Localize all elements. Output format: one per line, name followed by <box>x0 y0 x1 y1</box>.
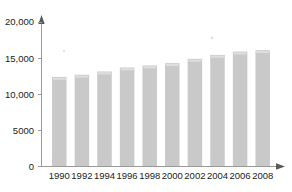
bar <box>120 68 135 167</box>
bar-top-highlight <box>53 78 66 80</box>
bar <box>97 71 112 166</box>
scan-speck-secondary-icon <box>211 37 214 40</box>
bar-rect <box>165 63 180 166</box>
bar-top-highlight <box>75 75 88 77</box>
x-axis-tick-label: 2002 <box>184 170 205 181</box>
bar-rect <box>75 75 90 167</box>
bar-rect <box>233 52 248 167</box>
bar-top-highlight <box>166 64 179 66</box>
bar <box>52 77 67 167</box>
x-axis-tick-label: 2004 <box>207 170 228 181</box>
bar <box>233 52 248 167</box>
bar-chart: 0500010,00015,00020,000 1990199219941996… <box>0 0 292 192</box>
bar <box>75 75 90 167</box>
bar <box>165 63 180 166</box>
y-axis-tick-label: 0 <box>29 161 34 172</box>
bar <box>210 55 225 167</box>
bar-rect <box>97 71 112 166</box>
bar-top-highlight <box>143 66 156 68</box>
scan-speck-icon <box>63 50 65 52</box>
bar-rect <box>255 50 270 166</box>
bar <box>255 50 270 166</box>
bar <box>142 65 157 166</box>
bar-top-highlight <box>121 68 134 70</box>
y-axis-tick-label: 20,000 <box>5 16 34 27</box>
x-axis-tick-label: 1994 <box>94 170 115 181</box>
x-axis-tick-label: 1992 <box>71 170 92 181</box>
bar-rect <box>142 65 157 166</box>
y-axis-tick-label: 15,000 <box>5 53 34 64</box>
x-axis-tick-labels: 1990199219941996199820002002200420062008 <box>49 170 274 181</box>
bar-top-highlight <box>211 56 224 58</box>
x-axis-tick-label: 1996 <box>117 170 138 181</box>
bar <box>188 59 203 167</box>
x-axis-tick-label: 1990 <box>49 170 70 181</box>
bar-top-highlight <box>188 60 201 62</box>
bar-rect <box>210 55 225 167</box>
x-axis-tick-label: 2008 <box>252 170 273 181</box>
x-axis-tick-label: 2006 <box>230 170 251 181</box>
y-axis-tick-label: 5000 <box>13 125 34 136</box>
bar-top-highlight <box>256 51 269 53</box>
x-axis-tick-label: 2000 <box>162 170 183 181</box>
chart-canvas: 0500010,00015,00020,000 1990199219941996… <box>0 0 292 192</box>
bar-top-highlight <box>98 72 111 74</box>
bar-rect <box>52 77 67 167</box>
bar-rect <box>188 59 203 167</box>
bar-rect <box>120 68 135 167</box>
y-axis-tick-label: 10,000 <box>5 89 34 100</box>
bar-top-highlight <box>234 52 247 54</box>
x-axis-tick-label: 1998 <box>139 170 160 181</box>
